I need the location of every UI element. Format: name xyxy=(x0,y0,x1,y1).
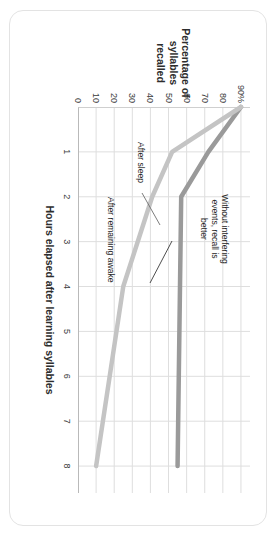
x-axis-tick-4: 4 xyxy=(62,277,72,297)
y-axis-tick-80: 80 xyxy=(218,69,228,103)
x-axis-tick-7: 7 xyxy=(62,411,72,431)
annotation-after-remaining-awake: After remaining awake xyxy=(106,197,116,289)
y-axis-tick-50: 50 xyxy=(164,69,174,103)
plot-area xyxy=(78,107,250,493)
x-axis-title: Hours elapsed after learning syllables xyxy=(44,107,56,493)
chart-series-lines xyxy=(78,107,250,493)
y-axis-tick-90: 90% xyxy=(236,69,246,103)
y-axis-tick-20: 20 xyxy=(109,69,119,103)
y-axis-tick-labels: 0102030405060708090% xyxy=(78,67,250,103)
x-axis-tick-3: 3 xyxy=(62,232,72,252)
y-axis-tick-60: 60 xyxy=(182,69,192,103)
x-axis-tick-1: 1 xyxy=(62,142,72,162)
annotation-headline: Without interfering events, recall is be… xyxy=(199,186,230,272)
chart-card: Percentage of syllables recalled 0102030… xyxy=(9,10,267,526)
annotation-after-sleep: After sleep xyxy=(136,129,146,183)
x-axis-tick-8: 8 xyxy=(62,456,72,476)
y-axis-tick-70: 70 xyxy=(200,69,210,103)
y-axis-tick-40: 40 xyxy=(145,69,155,103)
y-axis-tick-10: 10 xyxy=(91,69,101,103)
x-axis-tick-5: 5 xyxy=(62,321,72,341)
x-axis-tick-2: 2 xyxy=(62,187,72,207)
x-axis-tick-6: 6 xyxy=(62,366,72,386)
x-axis-tick-labels: 12345678 xyxy=(58,107,72,493)
rotated-figure-wrapper: Percentage of syllables recalled 0102030… xyxy=(0,0,275,537)
y-axis-tick-0: 0 xyxy=(73,69,83,103)
y-axis-tick-30: 30 xyxy=(127,69,137,103)
